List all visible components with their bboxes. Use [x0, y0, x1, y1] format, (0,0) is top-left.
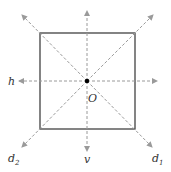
label-center-o: O — [88, 92, 97, 105]
label-v: v — [84, 153, 91, 166]
square-symmetry-diagram: h O v d2 d1 — [0, 0, 171, 172]
label-d1: d1 — [152, 152, 164, 167]
center-point — [85, 79, 89, 83]
label-d2: d2 — [8, 152, 20, 167]
label-h: h — [8, 75, 15, 88]
